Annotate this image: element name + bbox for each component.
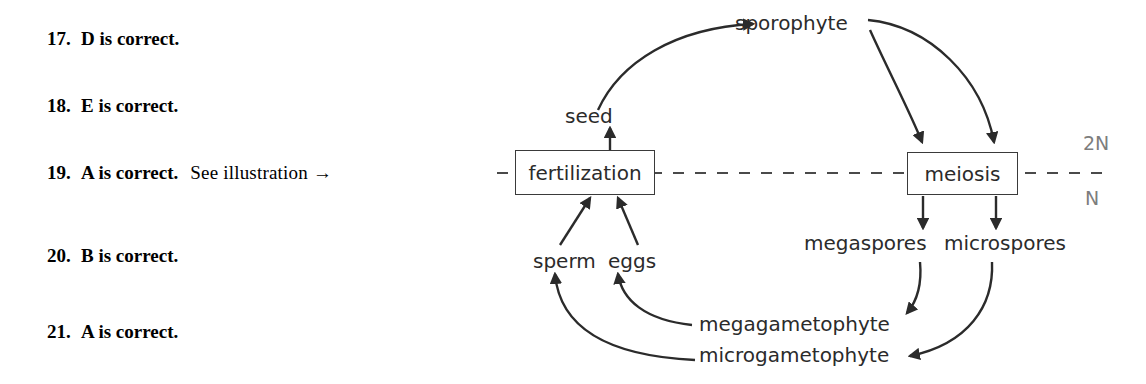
answer-item-17: 17.D is correct.	[47, 29, 179, 48]
process-box-meiosis[interactable]: meiosis	[907, 152, 1018, 195]
arrow-seed-to-sporophyte	[598, 24, 753, 110]
answer-item-19: 19.A is correct.See illustration →	[47, 163, 332, 182]
answer-number: 21.	[47, 322, 81, 341]
ploidy-label-haploid: N	[1085, 189, 1099, 208]
answer-text: B is correct.	[81, 245, 178, 266]
answer-number: 17.	[47, 29, 81, 48]
ploidy-label-diploid: 2N	[1083, 134, 1109, 153]
stage-label-eggs: eggs	[608, 251, 656, 271]
stage-label-microspores: microspores	[944, 233, 1066, 253]
answer-text: E is correct.	[81, 95, 178, 116]
answer-item-18: 18.E is correct.	[47, 96, 178, 115]
answer-number: 20.	[47, 246, 81, 265]
answer-illustration-note: See illustration →	[190, 162, 332, 183]
answer-item-21: 21.A is correct.	[47, 322, 178, 341]
answer-number: 18.	[47, 96, 81, 115]
arrow-sporophyte-to-meiosis-outer	[868, 20, 994, 142]
process-box-fertilization-label: fertilization	[528, 161, 641, 185]
stage-label-megagametophyte: megagametophyte	[699, 314, 890, 334]
answer-item-20: 20.B is correct.	[47, 246, 178, 265]
stage-label-sperm: sperm	[533, 251, 596, 271]
answer-key-list: 17.D is correct. 18.E is correct. 19.A i…	[0, 0, 470, 384]
arrow-megaspores-to-megagametophyte	[907, 262, 920, 313]
process-box-fertilization[interactable]: fertilization	[515, 150, 655, 195]
stage-label-sporophyte: sporophyte	[735, 13, 848, 33]
stage-label-megaspores: megaspores	[804, 233, 927, 253]
stage-label-microgametophyte: microgametophyte	[699, 345, 889, 365]
answer-text: D is correct.	[81, 28, 179, 49]
arrow-megagametophyte-to-eggs	[618, 274, 692, 325]
arrow-microgametophyte-to-sperm	[555, 274, 695, 360]
arrow-sporophyte-to-meiosis-inner	[870, 30, 922, 142]
plant-life-cycle-diagram: fertilization meiosis sporophyte seed sp…	[470, 0, 1146, 384]
stage-label-seed: seed	[565, 106, 613, 126]
answer-text: A is correct.	[81, 321, 178, 342]
arrow-sperm-to-fertilization	[560, 198, 590, 245]
answer-key-page: 17.D is correct. 18.E is correct. 19.A i…	[0, 0, 1146, 384]
answer-text: A is correct.	[81, 162, 178, 183]
arrow-eggs-to-fertilization	[618, 198, 638, 245]
answer-number: 19.	[47, 163, 81, 182]
arrow-microspores-to-microgametophyte	[910, 262, 992, 356]
process-box-meiosis-label: meiosis	[925, 162, 1001, 186]
